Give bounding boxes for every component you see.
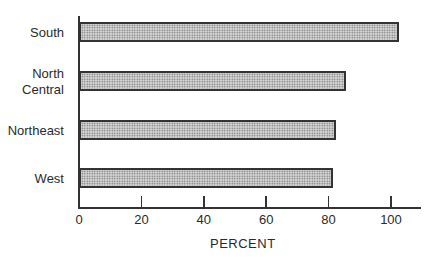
bar-chart: South North Central Northeast West 0 20 … bbox=[0, 0, 432, 261]
bar-west bbox=[79, 168, 333, 188]
x-tick-label: 80 bbox=[309, 212, 349, 227]
x-tick bbox=[141, 196, 143, 208]
bar-northeast bbox=[79, 120, 336, 140]
category-label-north-central: North Central bbox=[22, 66, 64, 98]
category-label-south: South bbox=[30, 25, 64, 41]
category-label-northeast: Northeast bbox=[8, 123, 64, 139]
x-tick-label: 60 bbox=[246, 212, 286, 227]
x-tick bbox=[390, 196, 392, 208]
x-axis-title: PERCENT bbox=[210, 236, 276, 251]
x-tick-label: 100 bbox=[371, 212, 411, 227]
x-tick bbox=[203, 196, 205, 208]
x-axis bbox=[78, 207, 421, 209]
x-tick-label: 40 bbox=[184, 212, 224, 227]
x-tick-label: 0 bbox=[59, 212, 99, 227]
category-label-west: West bbox=[35, 171, 64, 187]
bar-north-central bbox=[79, 71, 346, 91]
bar-south bbox=[79, 22, 399, 42]
x-tick bbox=[328, 196, 330, 208]
x-tick bbox=[265, 196, 267, 208]
x-tick-label: 20 bbox=[121, 212, 161, 227]
